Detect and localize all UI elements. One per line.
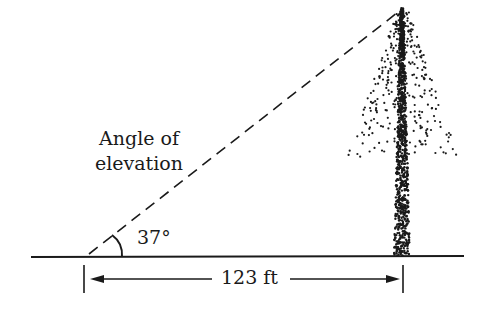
ground-line	[31, 256, 464, 257]
caption-line-2: elevation	[84, 151, 194, 176]
angle-arc	[112, 235, 122, 257]
tree-icon	[348, 7, 458, 257]
angle-of-elevation-caption: Angle of elevation	[84, 126, 194, 176]
caption-line-1: Angle of	[84, 126, 194, 151]
angle-label: 37°	[137, 226, 171, 248]
arrow-right-icon	[386, 275, 400, 283]
arrow-left-icon	[90, 275, 104, 283]
distance-label: 123 ft	[215, 266, 284, 288]
elevation-diagram: Angle of elevation 37° 123 ft	[0, 0, 489, 312]
